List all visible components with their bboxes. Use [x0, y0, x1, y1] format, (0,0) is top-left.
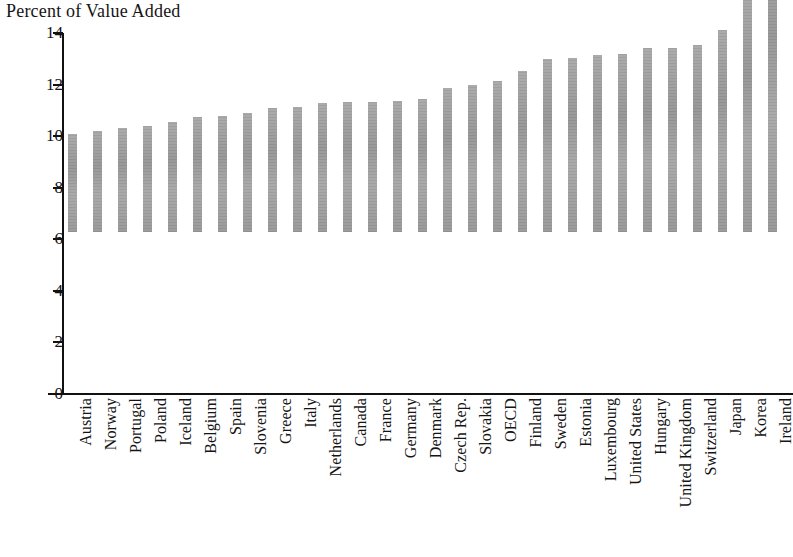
bar — [218, 116, 227, 232]
x-axis-category-label-text: Sweden — [554, 398, 567, 451]
bar — [143, 126, 152, 232]
x-axis-category-label: Luxembourg — [604, 398, 617, 483]
bar — [618, 54, 627, 232]
bar — [443, 88, 452, 232]
x-axis-category-label-text: Hungary — [654, 398, 667, 457]
bar — [343, 102, 352, 232]
x-axis-category-label-text: United Kingdom — [679, 398, 692, 509]
x-axis-category-label-text: Slovenia — [254, 398, 267, 457]
bar — [118, 128, 127, 232]
x-axis-category-label-text: Portugal — [129, 398, 142, 455]
x-axis-category-label-text: Switzerland — [704, 398, 717, 478]
x-axis-category-label-text: Spain — [229, 398, 242, 437]
plot-area: 02468101214 AustriaNorwayPortugalPolandI… — [0, 0, 793, 557]
x-axis-category-label-text: United States — [629, 398, 642, 487]
bar — [518, 71, 527, 232]
x-axis-category-label-text: Belgium — [204, 398, 217, 456]
category-labels: AustriaNorwayPortugalPolandIcelandBelgiu… — [0, 398, 793, 557]
bar — [68, 134, 77, 232]
x-axis-category-label: Italy — [304, 398, 317, 430]
bar — [393, 101, 402, 233]
x-axis-category-label: Ireland — [779, 398, 792, 446]
x-axis-category-label: United States — [629, 398, 642, 487]
bar — [718, 30, 727, 232]
bar — [93, 131, 102, 232]
x-axis-category-label: Slovenia — [254, 398, 267, 457]
x-axis-category-label-text: OECD — [504, 398, 517, 444]
x-axis-category-label: Denmark — [429, 398, 442, 460]
x-axis-category-label-text: Greece — [279, 398, 292, 446]
x-axis-category-label: United Kingdom — [679, 398, 692, 509]
bar — [543, 59, 552, 232]
bar — [168, 122, 177, 232]
bar — [418, 99, 427, 232]
bar — [468, 85, 477, 232]
bar — [693, 45, 702, 232]
bar — [768, 0, 777, 232]
x-axis-category-label-text: Norway — [104, 398, 117, 452]
x-axis-category-label-text: Canada — [354, 398, 367, 449]
x-axis-category-label: Hungary — [654, 398, 667, 457]
x-axis-category-label: Portugal — [129, 398, 142, 455]
bar — [193, 117, 202, 232]
x-axis-category-label-text: Germany — [404, 398, 417, 460]
bar — [243, 113, 252, 232]
x-axis-category-label-text: Slovakia — [479, 398, 492, 457]
x-axis-category-label: Korea — [754, 398, 767, 440]
bar — [743, 0, 752, 232]
x-axis-category-label: Belgium — [204, 398, 217, 456]
x-axis-category-label: Norway — [104, 398, 117, 452]
x-axis-category-label-text: Czech Rep. — [454, 398, 467, 475]
bar — [368, 102, 377, 232]
x-axis-category-label: Czech Rep. — [454, 398, 467, 475]
x-axis-category-label: Germany — [404, 398, 417, 460]
bar — [568, 58, 577, 232]
x-axis-category-label-text: Japan — [729, 398, 742, 437]
x-axis-category-label-text: Italy — [304, 398, 317, 430]
x-axis-category-label-text: Denmark — [429, 398, 442, 460]
x-axis-category-label-text: Poland — [154, 398, 167, 445]
x-axis-category-label-text: France — [379, 398, 392, 444]
x-axis-category-label: Austria — [79, 398, 92, 448]
bar-chart: Percent of Value Added 02468101214 Austr… — [0, 0, 793, 557]
x-axis-category-label-text: Korea — [754, 398, 767, 440]
x-axis-category-label-text: Ireland — [779, 398, 792, 446]
bar — [493, 81, 502, 232]
bars-layer — [0, 0, 793, 395]
bar — [593, 55, 602, 232]
x-axis-category-label: Japan — [729, 398, 742, 437]
x-axis-category-label: Sweden — [554, 398, 567, 451]
bar — [293, 107, 302, 232]
x-axis-category-label-text: Finland — [529, 398, 542, 450]
x-axis-category-label: Slovakia — [479, 398, 492, 457]
x-axis-category-label: Spain — [229, 398, 242, 437]
x-axis-category-label-text: Austria — [79, 398, 92, 448]
bar — [668, 48, 677, 232]
x-axis-category-label: OECD — [504, 398, 517, 444]
x-axis-category-label: Iceland — [179, 398, 192, 448]
x-axis-category-label-text: Luxembourg — [604, 398, 617, 483]
x-axis-category-label: France — [379, 398, 392, 444]
x-axis-category-label: Canada — [354, 398, 367, 449]
x-axis-category-label-text: Iceland — [179, 398, 192, 448]
bar — [643, 48, 652, 232]
x-axis-category-label: Finland — [529, 398, 542, 450]
x-axis-category-label: Estonia — [579, 398, 592, 449]
bar — [318, 103, 327, 232]
x-axis-category-label: Netherlands — [329, 398, 342, 478]
x-axis-category-label-text: Netherlands — [329, 398, 342, 478]
x-axis-category-label-text: Estonia — [579, 398, 592, 449]
x-axis-category-label: Switzerland — [704, 398, 717, 478]
bar — [268, 108, 277, 232]
x-axis-category-label: Poland — [154, 398, 167, 445]
x-axis-category-label: Greece — [279, 398, 292, 446]
